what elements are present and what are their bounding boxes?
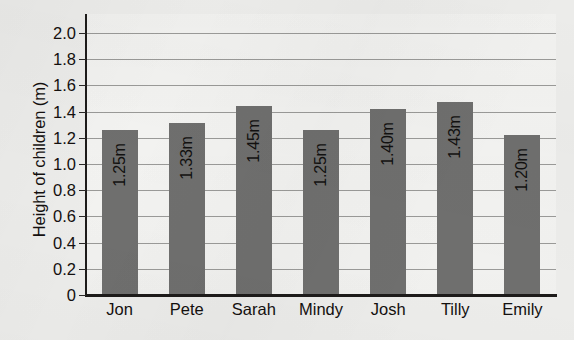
y-axis-tick-labels: 2.01.81.61.41.21.00.80.60.40.20 [30, 0, 76, 340]
gridline [86, 112, 556, 113]
y-axis-tick-label: 0.8 [36, 182, 76, 199]
y-axis-tick-label: 0.2 [36, 261, 76, 278]
gridline [86, 85, 556, 86]
plot-area: 1.25m1.33m1.45m1.25m1.40m1.43m1.20m [86, 14, 556, 295]
y-axis-tick-label: 0.6 [36, 208, 76, 225]
x-axis-line [85, 294, 557, 297]
x-axis-category-label: Jon [86, 300, 153, 319]
y-axis-tick-label: 2.0 [36, 25, 76, 42]
y-axis-tick-mark [79, 164, 86, 165]
x-axis-category-label: Emily [489, 300, 556, 319]
y-axis-tick-label: 1.2 [36, 130, 76, 147]
y-axis-tick-label: 1.0 [36, 156, 76, 173]
x-axis-category-label: Tilly [422, 300, 489, 319]
bar: 1.25m [303, 130, 339, 295]
x-axis-category-label: Josh [355, 300, 422, 319]
bar-value-label: 1.43m [446, 105, 464, 169]
bar-chart: Height of children (m) 1.25m1.33m1.45m1.… [0, 0, 574, 340]
bar: 1.45m [236, 106, 272, 295]
bar: 1.40m [370, 109, 406, 295]
gridline [86, 33, 556, 34]
x-axis-category-label: Pete [153, 300, 220, 319]
gridline [86, 59, 556, 60]
y-axis-tick-mark [79, 190, 86, 191]
y-axis-tick-label: 1.6 [36, 77, 76, 94]
y-axis-tick-label: 1.8 [36, 51, 76, 68]
y-axis-tick-mark [79, 59, 86, 60]
bar: 1.43m [437, 102, 473, 295]
y-axis-tick-mark [79, 85, 86, 86]
y-axis-tick-mark [79, 138, 86, 139]
bar-value-label: 1.40m [379, 112, 397, 176]
y-axis-tick-label: 0 [36, 287, 76, 304]
bar: 1.33m [169, 123, 205, 295]
y-axis-tick-mark [79, 216, 86, 217]
bar-value-label: 1.45m [245, 109, 263, 173]
y-axis-tick-mark [79, 33, 86, 34]
bar: 1.20m [504, 135, 540, 295]
y-axis-tick-label: 0.4 [36, 235, 76, 252]
y-axis-tick-mark [79, 243, 86, 244]
bar-value-label: 1.25m [111, 133, 129, 197]
y-axis-tick-mark [79, 295, 86, 296]
bar: 1.25m [102, 130, 138, 295]
y-axis-tick-mark [79, 269, 86, 270]
y-axis-tick-label: 1.4 [36, 104, 76, 121]
bar-value-label: 1.25m [312, 133, 330, 197]
y-axis-tick-mark [79, 112, 86, 113]
y-axis-line [85, 14, 87, 296]
bar-value-label: 1.20m [513, 138, 531, 202]
x-axis-category-label: Mindy [287, 300, 354, 319]
bar-value-label: 1.33m [178, 126, 196, 190]
x-axis-category-label: Sarah [220, 300, 287, 319]
